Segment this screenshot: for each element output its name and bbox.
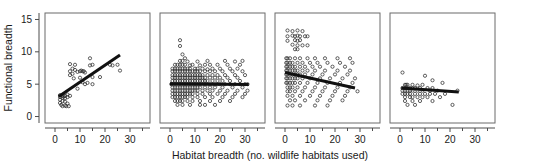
data-point <box>213 76 216 79</box>
data-point <box>316 81 319 84</box>
data-point <box>196 96 199 99</box>
data-point <box>116 63 119 66</box>
data-point <box>203 96 206 99</box>
data-point <box>216 63 219 66</box>
data-point <box>228 99 231 102</box>
data-point <box>73 63 76 66</box>
data-point <box>293 99 296 102</box>
data-point <box>413 103 416 106</box>
data-point <box>286 35 289 38</box>
data-point <box>203 103 206 106</box>
data-point <box>241 96 244 99</box>
data-point <box>291 94 294 97</box>
data-point <box>346 90 349 93</box>
data-point <box>211 74 214 77</box>
panel-3: 0102030 <box>275 13 380 145</box>
data-point <box>296 86 299 89</box>
chart-canvas: 051015Functional breadth0102030010203001… <box>0 0 534 167</box>
panel-1-regression-line <box>59 55 120 96</box>
data-point <box>306 44 309 47</box>
data-point <box>421 83 424 86</box>
data-point <box>201 92 204 95</box>
data-point <box>303 65 306 68</box>
data-point <box>233 60 236 63</box>
panel-2-regression-line <box>170 84 249 85</box>
panel-4-regression-line <box>401 88 459 92</box>
data-point <box>348 69 351 72</box>
data-point <box>433 92 436 95</box>
data-point <box>351 81 354 84</box>
data-point <box>188 103 191 106</box>
data-point <box>206 74 209 77</box>
data-point <box>298 65 301 68</box>
x-tick-label: 0 <box>52 134 58 145</box>
x-tick-label: 30 <box>354 134 366 145</box>
data-point <box>353 77 356 80</box>
data-point <box>201 67 204 70</box>
data-point <box>443 92 446 95</box>
panel-4-frame <box>390 13 495 123</box>
panel-1-x-axis: 0102030 <box>45 128 150 145</box>
data-point <box>228 67 231 70</box>
data-point <box>411 99 414 102</box>
data-point <box>336 86 339 89</box>
x-tick-label: 10 <box>189 134 201 145</box>
data-point <box>341 99 344 102</box>
data-point <box>208 76 211 79</box>
panel-2-x-axis: 0102030 <box>160 128 265 145</box>
data-point <box>423 74 426 77</box>
data-point <box>356 90 359 93</box>
data-point <box>76 87 79 90</box>
data-point <box>326 104 329 107</box>
y-tick-label: 5 <box>26 79 32 90</box>
data-point <box>236 76 239 79</box>
data-point <box>201 89 204 92</box>
data-point <box>218 67 221 70</box>
data-point <box>308 94 311 97</box>
data-point <box>328 77 331 80</box>
data-point <box>286 39 289 42</box>
data-point <box>301 90 304 93</box>
data-point <box>321 90 324 93</box>
data-point <box>216 92 219 95</box>
data-point <box>418 99 421 102</box>
data-point <box>298 81 301 84</box>
data-point <box>346 73 349 76</box>
x-tick-label: 10 <box>419 134 431 145</box>
data-point <box>331 94 334 97</box>
data-point <box>91 83 94 86</box>
data-point <box>211 89 214 92</box>
data-point <box>291 30 294 33</box>
data-point <box>451 103 454 106</box>
data-point <box>223 74 226 77</box>
data-point <box>221 96 224 99</box>
data-point <box>323 69 326 72</box>
data-point <box>313 69 316 72</box>
x-tick-label: 10 <box>74 134 86 145</box>
data-point <box>233 74 236 77</box>
data-point <box>223 92 226 95</box>
data-point <box>428 92 431 95</box>
data-point <box>208 70 211 73</box>
data-point <box>411 83 414 86</box>
data-point <box>176 103 179 106</box>
data-point <box>203 70 206 73</box>
y-tick-label: 15 <box>21 14 33 25</box>
data-point <box>303 99 306 102</box>
data-point <box>196 92 199 95</box>
data-point <box>406 103 409 106</box>
x-tick-label: 30 <box>239 134 251 145</box>
data-point <box>198 64 201 67</box>
data-point <box>191 96 194 99</box>
data-point <box>286 29 289 32</box>
data-point <box>211 67 214 70</box>
data-point <box>211 79 214 82</box>
data-point <box>318 94 321 97</box>
data-point <box>298 94 301 97</box>
data-point <box>291 43 294 46</box>
data-point <box>286 94 289 97</box>
data-point <box>208 63 211 66</box>
data-point <box>226 89 229 92</box>
panel-3-points <box>285 29 359 107</box>
data-point <box>221 86 224 89</box>
